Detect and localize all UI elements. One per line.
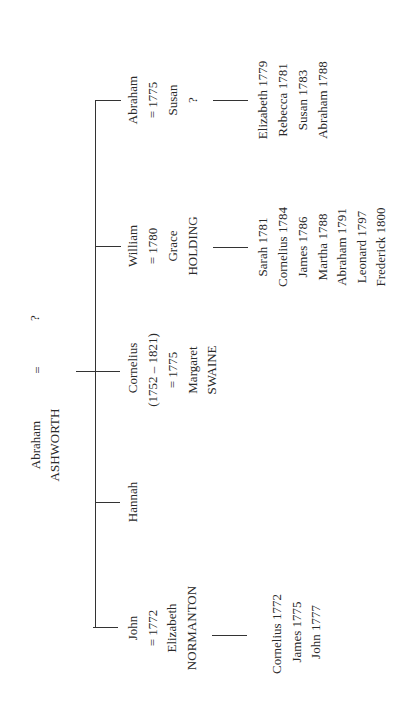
- grandchild: Cornelius 1784: [276, 207, 290, 287]
- child-line: NORMANTON: [185, 586, 199, 670]
- branch-william: [96, 246, 121, 247]
- child-line: Margaret: [186, 346, 200, 393]
- grandchild: James 1786: [296, 216, 310, 277]
- child-line: (1752 – 1821): [146, 333, 160, 407]
- child-line: SWAINE: [205, 345, 219, 394]
- grandchild: Cornelius 1772: [270, 594, 284, 674]
- child-line: John: [126, 616, 140, 641]
- child-line: = 1780: [146, 228, 160, 265]
- grandchild: Abraham 1788: [316, 61, 330, 139]
- grandchild: Rebecca 1781: [276, 63, 290, 136]
- root-given-name: Abraham: [29, 421, 43, 469]
- grandchild: Abraham 1791: [335, 208, 349, 286]
- offspring-connector: [212, 635, 247, 636]
- child-line: = 1775: [146, 82, 160, 119]
- branch-hannah: [96, 502, 120, 503]
- child-line: = 1772: [146, 610, 160, 647]
- root-surname: ASHWORTH: [48, 409, 62, 482]
- child-line: Hannah: [126, 482, 140, 522]
- child-line: Elizabeth: [165, 603, 179, 652]
- root-spouse: ?: [28, 315, 42, 321]
- sibling-bar: [95, 100, 96, 627]
- child-line: = 1775: [166, 352, 180, 389]
- child-line: ?: [186, 97, 200, 103]
- child-line: Grace: [166, 230, 180, 261]
- branch-abraham: [96, 100, 121, 101]
- grandchild: Frederick 1800: [374, 207, 388, 286]
- marriage-symbol: =: [31, 366, 45, 373]
- descent-line-stub: [76, 371, 120, 372]
- child-line: HOLDING: [186, 216, 200, 275]
- offspring-connector: [213, 247, 248, 248]
- grandchild: Susan 1783: [296, 70, 310, 130]
- grandchild: Sarah 1781: [256, 218, 270, 277]
- grandchild: Leonard 1797: [355, 211, 369, 284]
- offspring-connector: [213, 100, 248, 101]
- child-line: Abraham: [126, 76, 140, 124]
- child-line: William: [126, 225, 140, 267]
- child-line: Susan: [166, 84, 180, 115]
- child-line: Cornelius: [126, 343, 140, 394]
- grandchild: Martha 1788: [316, 214, 330, 281]
- grandchild: John 1777: [309, 605, 323, 659]
- branch-john: [93, 627, 118, 628]
- grandchild: James 1775: [290, 601, 304, 662]
- grandchild: Elizabeth 1779: [256, 61, 270, 139]
